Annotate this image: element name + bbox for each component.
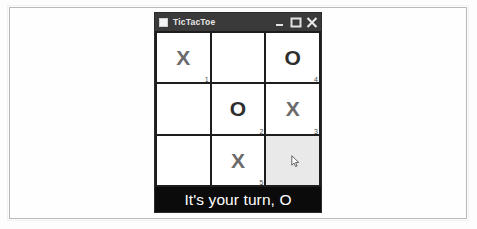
minimize-button[interactable] [273, 16, 287, 29]
cell-move-order: 5 [259, 179, 263, 185]
board-cell-6[interactable] [157, 136, 210, 185]
board-cell-7[interactable]: X 5 [212, 136, 265, 185]
board-cell-5[interactable]: X 3 [266, 84, 319, 133]
window-title: TicTacToe [173, 17, 215, 27]
board-cell-0[interactable]: X 1 [157, 33, 210, 82]
board-cell-8[interactable] [266, 136, 319, 185]
close-button[interactable] [305, 16, 319, 29]
status-bar: It's your turn, O [155, 187, 321, 212]
cell-move-order: 1 [205, 76, 209, 82]
window-controls [273, 16, 319, 29]
tictactoe-board: X 1 O 4 O 2 X 3 X 5 [155, 31, 321, 187]
board-cell-2[interactable]: O 4 [266, 33, 319, 82]
mouse-pointer-icon [291, 154, 300, 167]
board-cell-1[interactable] [212, 33, 265, 82]
cell-mark: X [286, 98, 300, 119]
board-cell-4[interactable]: O 2 [212, 84, 265, 133]
cell-move-order: 4 [314, 76, 318, 82]
cell-move-order: 2 [259, 128, 263, 134]
window-title-bar[interactable]: TicTacToe [155, 13, 321, 31]
board-cell-3[interactable] [157, 84, 210, 133]
status-message: It's your turn, O [184, 191, 291, 209]
cell-mark: X [176, 47, 190, 68]
cell-mark: X [231, 150, 245, 171]
cell-mark: O [284, 47, 300, 68]
cell-mark: O [230, 98, 246, 119]
cell-move-order: 3 [314, 128, 318, 134]
tictactoe-window: TicTacToe X 1 [155, 13, 321, 212]
maximize-button[interactable] [289, 16, 303, 29]
app-window-icon [159, 18, 168, 27]
